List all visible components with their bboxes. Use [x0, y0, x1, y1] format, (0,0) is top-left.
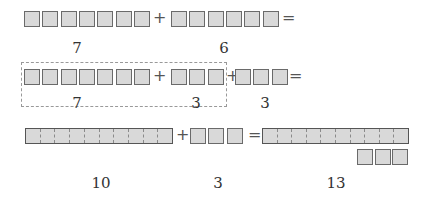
unit-block — [226, 11, 242, 27]
unit-block — [392, 149, 408, 165]
unit-block — [61, 11, 77, 27]
equals-sign: = — [289, 68, 302, 84]
bar-segment — [263, 129, 278, 143]
unit-block — [79, 11, 95, 27]
plus-sign: + — [153, 68, 166, 84]
unit-block — [227, 128, 243, 144]
unit-block — [171, 11, 187, 27]
unit-block — [244, 11, 260, 27]
unit-block — [253, 69, 269, 85]
bar-segment — [55, 129, 70, 143]
bar-segment — [307, 129, 322, 143]
unit-block — [61, 69, 77, 85]
bar-segment — [70, 129, 85, 143]
unit-block — [208, 128, 224, 144]
unit-block — [116, 11, 132, 27]
unit-block — [357, 149, 373, 165]
unit-block — [42, 11, 58, 27]
unit-block — [208, 11, 224, 27]
unit-block — [116, 69, 132, 85]
unit-block — [42, 69, 58, 85]
plus-sign: + — [176, 127, 189, 143]
bar-segment — [158, 129, 172, 143]
equals-sign: = — [282, 10, 295, 26]
bar-segment — [85, 129, 100, 143]
unit-block — [208, 69, 224, 85]
bar-segment — [41, 129, 56, 143]
bar-segment — [351, 129, 366, 143]
unit-block — [235, 69, 251, 85]
row2-label-left: 7 — [62, 95, 92, 111]
unit-block — [189, 69, 205, 85]
unit-block — [189, 11, 205, 27]
unit-block — [190, 128, 206, 144]
unit-block — [97, 11, 113, 27]
bar-segment — [114, 129, 129, 143]
bar-segment — [278, 129, 293, 143]
unit-block — [97, 69, 113, 85]
result-ten-bar — [262, 128, 409, 144]
row2-label-right: 3 — [250, 95, 280, 111]
row1-label-left: 7 — [62, 40, 92, 56]
bar-segment — [394, 129, 408, 143]
bar-segment — [100, 129, 115, 143]
unit-block — [24, 11, 40, 27]
row3-label-ten: 10 — [81, 175, 121, 191]
unit-block — [263, 11, 279, 27]
bar-segment — [292, 129, 307, 143]
unit-block — [171, 69, 187, 85]
row2-label-middle: 3 — [181, 95, 211, 111]
bar-segment — [26, 129, 41, 143]
row1-label-right: 6 — [209, 40, 239, 56]
unit-block — [134, 11, 150, 27]
unit-block — [24, 69, 40, 85]
row3-label-add: 3 — [203, 175, 233, 191]
bar-segment — [380, 129, 395, 143]
unit-block — [272, 69, 288, 85]
equals-sign: = — [248, 127, 261, 143]
bar-segment — [129, 129, 144, 143]
bar-segment — [321, 129, 336, 143]
unit-block — [79, 69, 95, 85]
row3-label-result: 13 — [316, 175, 356, 191]
bar-segment — [365, 129, 380, 143]
ten-bar — [25, 128, 173, 144]
plus-sign: + — [153, 10, 166, 26]
bar-segment — [144, 129, 159, 143]
unit-block — [134, 69, 150, 85]
unit-block — [375, 149, 391, 165]
bar-segment — [336, 129, 351, 143]
